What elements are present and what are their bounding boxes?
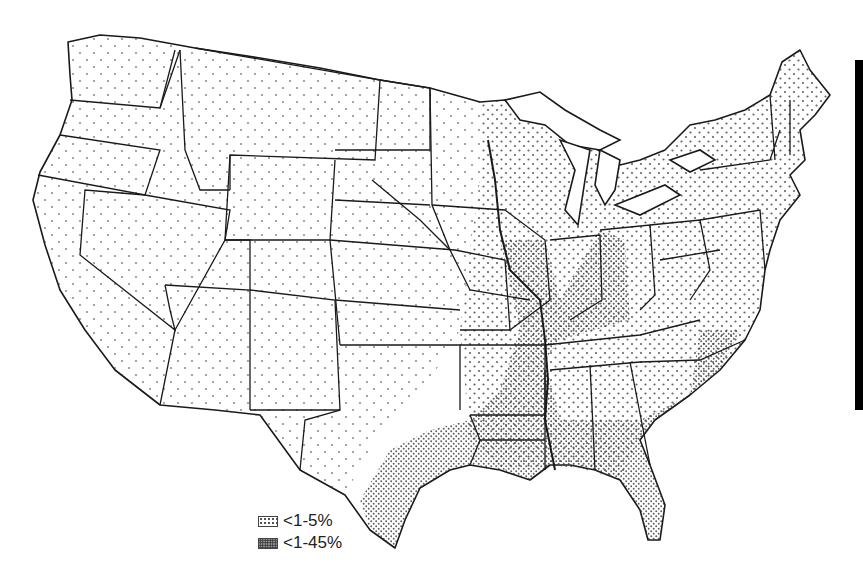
us-dot-density-map <box>0 0 863 580</box>
legend-label: <1-5% <box>283 511 333 531</box>
legend-item-high: <1-45% <box>258 532 342 554</box>
legend-item-low: <1-5% <box>258 510 342 532</box>
edge-bar <box>855 60 863 410</box>
legend-label: <1-45% <box>283 533 342 553</box>
sparse-dot-swatch-icon <box>258 516 278 527</box>
map-legend: <1-5% <1-45% <box>258 510 342 554</box>
dense-dot-swatch-icon <box>258 538 278 549</box>
